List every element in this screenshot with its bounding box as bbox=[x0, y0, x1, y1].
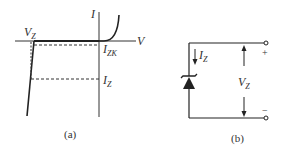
zener-diode-figure: I V VZ IZK IZ (a) + − bbox=[0, 0, 284, 154]
iz-label: IZ bbox=[102, 73, 112, 89]
izk-label: IZK bbox=[102, 42, 117, 58]
panel-b-caption: (b) bbox=[231, 132, 244, 145]
zener-diode-icon bbox=[181, 74, 197, 89]
positive-terminal bbox=[264, 41, 268, 45]
voltage-down-arrow-icon bbox=[242, 97, 247, 117]
vz-voltage-label: VZ bbox=[238, 75, 250, 91]
panel-b-circuit: + − IZ VZ (b) bbox=[181, 41, 268, 145]
forward-curve bbox=[99, 15, 119, 41]
voltage-axis-label: V bbox=[137, 34, 146, 48]
voltage-up-arrow-icon bbox=[242, 45, 247, 66]
vz-label: VZ bbox=[24, 25, 36, 41]
current-axis-label: I bbox=[90, 7, 96, 21]
minus-sign: − bbox=[262, 105, 268, 116]
panel-a-iv-characteristic: I V VZ IZK IZ (a) bbox=[15, 7, 146, 141]
plus-sign: + bbox=[262, 47, 268, 58]
iz-current-label: IZ bbox=[198, 48, 208, 64]
negative-terminal bbox=[264, 116, 268, 120]
current-arrow-icon bbox=[193, 49, 198, 65]
panel-a-caption: (a) bbox=[64, 128, 77, 141]
